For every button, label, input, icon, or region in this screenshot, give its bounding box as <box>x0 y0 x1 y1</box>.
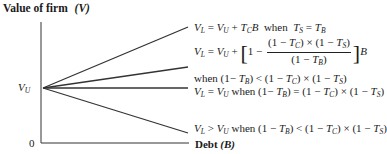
line-3-equation: VL = VU when (1− TB) = (1 − TC) × (1 − T… <box>194 85 384 101</box>
line-1 <box>43 27 188 88</box>
x-axis-title-var: (B) <box>220 138 235 150</box>
line-2 <box>43 67 188 88</box>
line-1-when: when <box>264 21 288 33</box>
line-2-when: when <box>194 72 218 84</box>
x-axis-title: Debt (B) <box>195 138 235 150</box>
vu-label-main: V <box>18 81 25 93</box>
line-1-equation: VL = VU + TCB when TS = TB <box>194 21 326 37</box>
origin-label: 0 <box>29 137 35 149</box>
vu-label: VU <box>18 81 30 95</box>
line-2-fraction: (1 − TC) × (1 − TS) (1 − TB) <box>267 36 351 69</box>
line-4 <box>43 88 188 133</box>
x-axis-title-text: Debt <box>195 138 218 150</box>
line-4-equation: VL > VU when (1 − TB) < (1 − TC) × (1 − … <box>194 122 387 138</box>
line-2-equation: VL = VU + [1 − (1 − TC) × (1 − TS) (1 − … <box>194 36 367 69</box>
line-3-when: when <box>232 85 256 97</box>
vu-label-sub: U <box>25 86 30 95</box>
line-4-when: when <box>232 122 256 134</box>
